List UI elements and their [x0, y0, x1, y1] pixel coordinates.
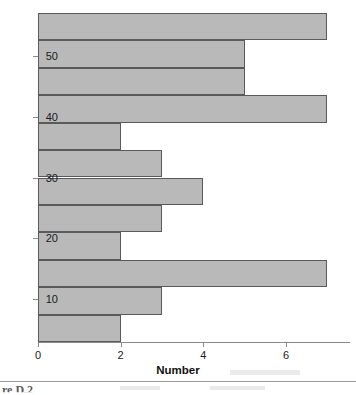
x-tick-label: 4 [200, 349, 206, 361]
x-tick-label: 6 [283, 349, 289, 361]
bar [38, 40, 245, 67]
scan-artifact-3 [210, 386, 265, 390]
bar [38, 178, 203, 205]
bar [38, 95, 327, 122]
x-tick-label: 2 [118, 349, 124, 361]
x-tick-mark [121, 342, 122, 347]
bar [38, 315, 121, 342]
scan-artifact-2 [120, 386, 160, 390]
bar [38, 68, 245, 95]
y-tick-mark [33, 56, 38, 57]
bar [38, 260, 327, 287]
x-tick-mark [38, 342, 39, 347]
bar [38, 13, 327, 40]
y-tick-mark [33, 299, 38, 300]
x-tick-mark [203, 342, 204, 347]
bar [38, 123, 121, 150]
x-tick-label: 0 [35, 349, 41, 361]
x-axis-label: Number [0, 364, 356, 376]
x-axis-line [38, 342, 350, 343]
scan-artifact-1 [230, 370, 300, 375]
bar-chart: 0246 1020304050 Number [0, 0, 356, 368]
y-tick-label: 40 [46, 111, 58, 123]
page-divider-rule [0, 381, 356, 382]
y-tick-label: 10 [46, 293, 58, 305]
x-tick-mark [286, 342, 287, 347]
y-tick-mark [33, 117, 38, 118]
figure-caption-fragment: re D.2 [2, 383, 33, 395]
y-tick-label: 30 [46, 172, 58, 184]
y-tick-label: 50 [46, 50, 58, 62]
y-tick-mark [33, 238, 38, 239]
y-tick-mark [33, 178, 38, 179]
bar [38, 205, 162, 232]
plot-area [38, 13, 348, 342]
figure-container: 0246 1020304050 Number re D.2 [0, 0, 356, 395]
y-tick-label: 20 [46, 232, 58, 244]
